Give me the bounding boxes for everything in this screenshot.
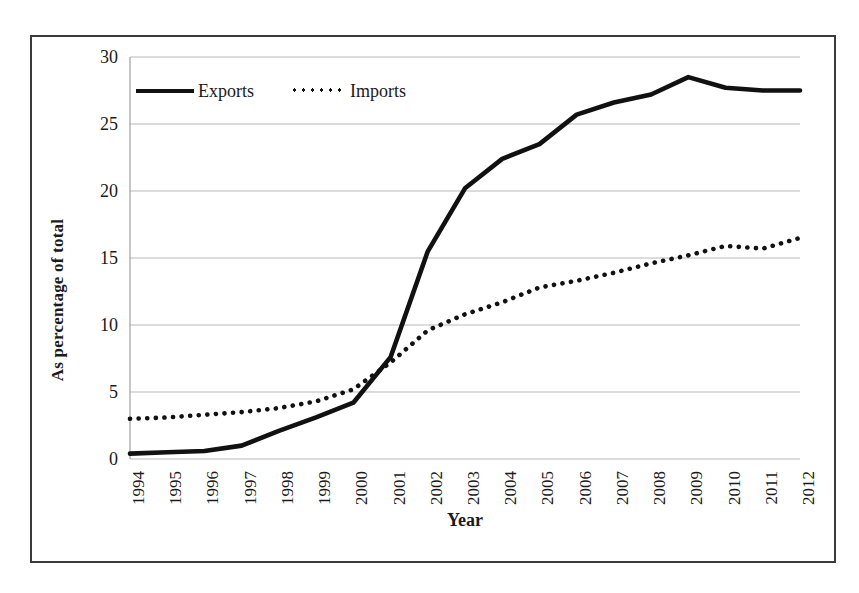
x-tick-label-text: 2012 — [800, 471, 817, 505]
chart-figure: As percentage of total 051015202530 1994… — [0, 0, 859, 593]
x-tick-label-text: 2010 — [726, 471, 743, 505]
y-axis-title: As percentage of total — [44, 150, 72, 450]
x-tick-label-text: 1994 — [130, 471, 147, 505]
x-tick-label-text: 2005 — [539, 471, 556, 505]
y-tick-label: 0 — [78, 450, 118, 468]
x-tick-label-text: 2003 — [465, 471, 482, 505]
y-tick-label: 10 — [78, 316, 118, 334]
legend-swatch-dotted-line-icon — [288, 84, 346, 98]
x-tick-label-text: 2009 — [688, 471, 705, 505]
x-tick-label-text: 2011 — [763, 471, 780, 504]
x-tick-label-text: 1995 — [167, 471, 184, 505]
x-tick-label-text: 1998 — [279, 471, 296, 505]
x-tick-label-text: 2007 — [614, 471, 631, 505]
x-tick-label-text: 2002 — [428, 471, 445, 505]
x-tick-label-text: 1999 — [316, 471, 333, 505]
x-tick-label-text: 2008 — [651, 471, 668, 505]
x-axis-title: Year — [130, 510, 800, 531]
x-tick-label-text: 2000 — [353, 471, 370, 505]
legend-swatch-solid-line-icon — [136, 84, 194, 98]
legend-label-exports: Exports — [198, 82, 254, 100]
x-tick-label-text: 2004 — [502, 471, 519, 505]
x-tick-label-text: 2006 — [577, 471, 594, 505]
series-line-exports — [130, 77, 800, 454]
y-tick-label: 5 — [78, 383, 118, 401]
y-tick-label: 15 — [78, 249, 118, 267]
gridlines — [130, 57, 800, 459]
y-tick-label: 20 — [78, 182, 118, 200]
y-tick-label: 25 — [78, 115, 118, 133]
x-tick-label-text: 1997 — [242, 471, 259, 505]
legend-item-imports: Imports — [288, 82, 406, 100]
y-tick-label: 30 — [78, 48, 118, 66]
x-tick-label-text: 1996 — [204, 471, 221, 505]
chart-legend: Exports Imports — [136, 82, 406, 100]
y-axis-title-text: As percentage of total — [48, 219, 68, 381]
x-tick-label-text: 2001 — [391, 471, 408, 505]
legend-label-imports: Imports — [350, 82, 406, 100]
legend-item-exports: Exports — [136, 82, 254, 100]
